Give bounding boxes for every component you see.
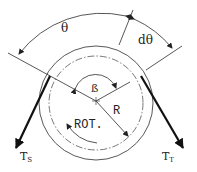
radius-label: R: [113, 104, 120, 118]
tension-tight-subscript: T: [169, 156, 174, 164]
tension-slack-label: TS: [20, 150, 32, 164]
belt-pulley-diagram: θ dθ ß R ROT. TS TT: [0, 0, 197, 172]
theta-label: θ: [61, 21, 68, 35]
rotation-label: ROT.: [74, 118, 103, 132]
dtheta-label: dθ: [138, 33, 153, 47]
left-reference-line: [8, 53, 96, 101]
belt-tight-side: [141, 76, 183, 148]
diagram-svg: θ dθ ß R ROT. TS TT: [0, 0, 197, 172]
dtheta-end-line: [146, 46, 182, 70]
right-inner-line: [96, 82, 130, 101]
beta-label: ß: [91, 82, 98, 95]
tension-slack-subscript: S: [27, 156, 32, 164]
tension-tight-label: TT: [162, 150, 174, 164]
belt-slack-side: [16, 76, 50, 148]
